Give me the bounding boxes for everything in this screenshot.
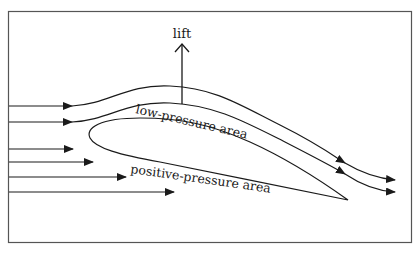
upper-streamline-1 — [9, 86, 395, 180]
lift-arrow — [175, 44, 189, 104]
lift-label: lift — [173, 26, 192, 41]
positive-pressure-label: positive-pressure area — [130, 161, 273, 196]
airfoil-lift-diagram: lift low-pressure area positive-pressure… — [0, 0, 418, 253]
low-pressure-label: low-pressure area — [134, 101, 249, 141]
